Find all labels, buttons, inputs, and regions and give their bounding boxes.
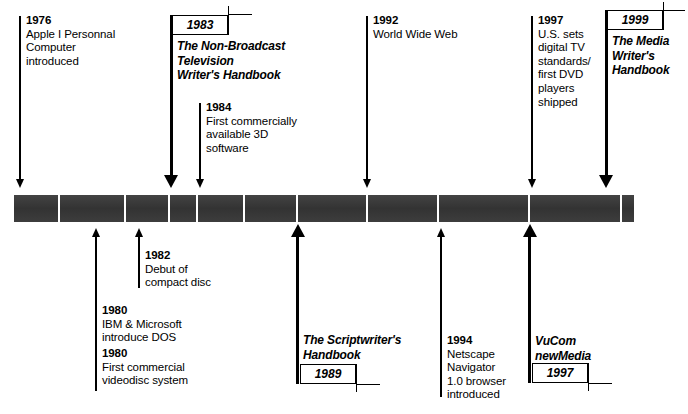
timeline-tick [243,195,245,222]
callout-text: Debut of compact disc [145,263,275,290]
timeline-tick [620,195,622,222]
arrow-head-down-icon [16,179,24,188]
book-title-1999: The Media Writer's Handbook [612,34,688,78]
callout-year: 1992 [373,14,513,28]
arrow-head-down-icon [528,179,536,188]
leader-line-vertical [356,364,357,392]
timeline-tick [296,195,298,222]
callout-rule-1980 [95,305,97,391]
timeline-tick [366,195,368,222]
callout-year: 1976 [26,14,156,28]
arrow-shaft-vucom [528,237,531,335]
callout-text: Netscape Navigator 1.0 browser introduce… [447,348,537,402]
arrow-shaft-1980 [95,237,97,305]
callout-rule-1982 [138,250,140,288]
leader-line-vertical [663,2,664,30]
arrow-head-up-icon [523,224,537,237]
callout-1980-dos: 1980 IBM & Microsoft introduce DOS [102,304,242,345]
year-box-1999: 1999 [607,10,663,30]
callout-1992: 1992 World Wide Web [373,14,513,41]
timeline-tick [528,195,530,222]
callout-1976: 1976 Apple I Personnal Computer introduc… [26,14,156,68]
arrow-shaft-1994 [440,237,442,335]
arrow-head-down-icon [196,179,204,188]
callout-text: Apple I Personnal Computer introduced [26,28,156,69]
timeline-tick [196,195,198,222]
callout-rule-1983 [170,15,173,35]
timeline-bar [14,195,634,222]
timeline-tick [124,195,126,222]
arrow-shaft-1984 [199,163,201,179]
callout-1984: 1984 First commercially available 3D sof… [206,101,336,155]
callout-rule-1976 [19,16,21,76]
callout-1982: 1982 Debut of compact disc [145,249,275,290]
callout-1980-videodisc: 1980 First commercial videodisc system [102,347,242,388]
callout-1994: 1994 Netscape Navigator 1.0 browser intr… [447,334,537,402]
callout-rule-1989 [296,334,299,384]
book-title-vucom: VuCom newMedia [535,334,645,363]
arrow-head-down-icon [599,175,613,188]
arrow-head-down-icon [363,179,371,188]
year-box-1989: 1989 [300,364,356,384]
callout-1997: 1997 U.S. sets digital TV standards/ fir… [538,14,608,109]
arrow-shaft-1983 [170,35,173,175]
callout-year: 1982 [145,249,275,263]
callout-rule-1992 [366,16,368,49]
arrow-head-down-icon [164,175,178,188]
callout-year: 1980 [102,347,242,361]
arrow-head-up-icon [92,228,100,237]
callout-year: 1997 [538,14,608,28]
leader-line-vertical [228,6,229,35]
book-title-1989: The Scriptwriter's Handbook [303,333,463,362]
book-title-1983: The Non-Broadcast Television Writer's Ha… [177,39,327,83]
arrow-shaft-1989 [296,237,299,334]
callout-text: IBM & Microsoft introduce DOS [102,318,242,345]
timeline-tick [58,195,60,222]
callout-rule-1984 [199,103,201,163]
arrow-shaft-1992 [366,49,368,179]
callout-year: 1984 [206,101,336,115]
callout-year: 1980 [102,304,242,318]
leader-line-horizontal [588,383,612,384]
arrow-head-up-icon [135,228,143,237]
arrow-head-up-icon [291,224,305,237]
timeline-tick [168,195,170,222]
callout-rule-vucom [528,335,531,383]
leader-line-horizontal [228,14,252,15]
leader-line-horizontal [356,384,380,385]
callout-year: 1994 [447,334,537,348]
callout-text: First commercial videodisc system [102,361,242,388]
timeline-tick [437,195,439,222]
callout-rule-1999 [605,10,608,30]
callout-rule-1997 [531,16,533,106]
arrow-head-up-icon [437,228,445,237]
leader-line-horizontal [663,10,685,11]
year-box-1997-vucom: 1997 [532,363,588,383]
arrow-shaft-1997 [531,106,533,179]
year-box-1983: 1983 [172,15,228,35]
arrow-shaft-1999 [605,30,608,175]
leader-line-vertical [588,363,589,391]
callout-text: First commercially available 3D software [206,115,336,156]
callout-text: U.S. sets digital TV standards/ first DV… [538,28,608,110]
callout-text: World Wide Web [373,28,513,42]
arrow-shaft-1976 [19,76,21,179]
callout-rule-1994 [440,335,442,397]
timeline-diagram: 1976 Apple I Personnal Computer introduc… [0,0,688,414]
